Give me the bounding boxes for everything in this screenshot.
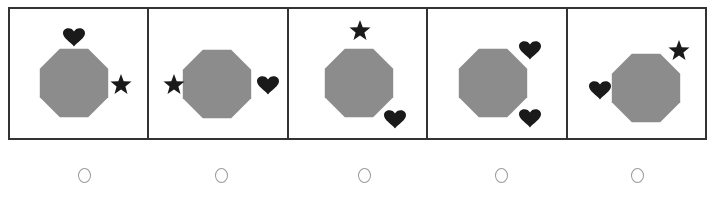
octagon-shape [611, 54, 679, 122]
option-radio-1[interactable] [78, 168, 91, 183]
option-panel-2 [149, 9, 288, 138]
option-panel-1 [10, 9, 149, 138]
option-figure-2 [149, 9, 286, 138]
option-radio-5[interactable] [631, 168, 644, 183]
option-panel-3 [289, 9, 428, 138]
option-figure-4 [428, 9, 565, 138]
answer-options-strip [8, 7, 707, 140]
octagon-shape [183, 50, 251, 118]
heart-icon [519, 109, 541, 127]
option-panel-4 [428, 9, 567, 138]
option-radio-4[interactable] [495, 168, 508, 183]
heart-icon [63, 28, 85, 46]
star-icon [349, 20, 370, 40]
option-figure-1 [10, 9, 147, 138]
octagon-shape [40, 49, 108, 117]
star-icon [668, 40, 689, 60]
star-icon [164, 74, 185, 94]
option-radio-2[interactable] [215, 168, 228, 183]
heart-icon [519, 41, 541, 59]
option-panel-5 [568, 9, 705, 138]
octagon-shape [325, 49, 393, 117]
octagon-shape [459, 49, 527, 117]
heart-icon [257, 76, 279, 94]
option-figure-3 [289, 9, 426, 138]
heart-icon [589, 81, 611, 99]
option-figure-5 [568, 9, 705, 138]
heart-icon [384, 110, 406, 128]
option-radio-3[interactable] [358, 168, 371, 183]
star-icon [111, 74, 132, 94]
